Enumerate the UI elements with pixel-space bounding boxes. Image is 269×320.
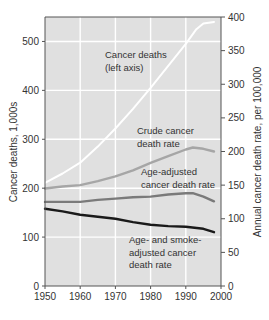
series-annotation: adjusted cancer bbox=[129, 247, 196, 258]
right-tick-label: 350 bbox=[228, 45, 245, 56]
series-annotation: (left axis) bbox=[105, 62, 144, 73]
series-annotation: death rate bbox=[137, 138, 180, 149]
left-tick-label: 0 bbox=[33, 281, 39, 292]
x-tick-label: 1970 bbox=[104, 291, 127, 302]
right-tick-label: 100 bbox=[228, 213, 245, 224]
right-tick-label: 400 bbox=[228, 12, 245, 23]
series-annotation: Cancer deaths bbox=[105, 49, 167, 60]
right-tick-label: 50 bbox=[228, 247, 240, 258]
series-annotation: cancer death rate bbox=[141, 179, 215, 190]
series-annotation: Age-adjusted bbox=[141, 166, 197, 177]
series-annotation: Age- and smoke- bbox=[129, 234, 201, 245]
left-tick-label: 500 bbox=[22, 36, 39, 47]
right-tick-label: 150 bbox=[228, 180, 245, 191]
cancer-deaths-chart: 0100200300400500050100150200250300350400… bbox=[0, 0, 269, 320]
left-tick-label: 300 bbox=[22, 134, 39, 145]
series-annotation: Crude cancer bbox=[137, 125, 194, 136]
x-tick-label: 1950 bbox=[34, 291, 57, 302]
left-axis-title: Cancer deaths, 1,000s bbox=[8, 102, 19, 203]
x-tick-label: 1980 bbox=[139, 291, 162, 302]
right-tick-label: 300 bbox=[228, 79, 245, 90]
right-tick-label: 250 bbox=[228, 112, 245, 123]
right-axis-title: Annual cancer death rate, per 100,000 bbox=[252, 66, 263, 237]
right-tick-label: 200 bbox=[228, 146, 245, 157]
left-tick-label: 200 bbox=[22, 183, 39, 194]
x-tick-label: 1990 bbox=[175, 291, 198, 302]
left-tick-label: 100 bbox=[22, 232, 39, 243]
series-annotation: death rate bbox=[129, 259, 172, 270]
right-tick-label: 0 bbox=[228, 281, 234, 292]
x-tick-label: 1960 bbox=[69, 291, 92, 302]
left-tick-label: 400 bbox=[22, 85, 39, 96]
x-tick-label: 2000 bbox=[210, 291, 233, 302]
